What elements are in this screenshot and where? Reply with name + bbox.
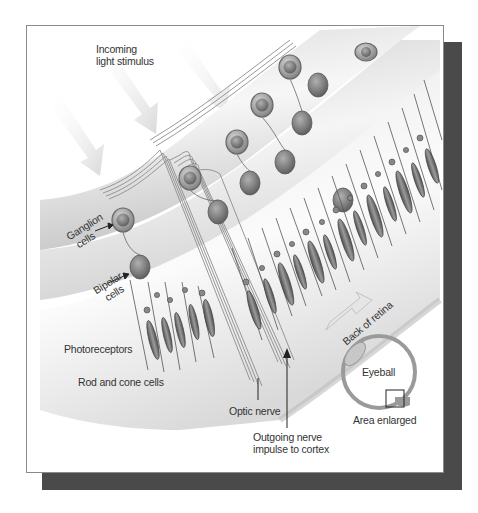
label-outgoing-impulse: Outgoing nerve impulse to cortex (253, 431, 329, 455)
label-area-enlarged: Area enlarged (353, 414, 416, 426)
label-eyeball: Eyeball (362, 366, 395, 378)
label-rod-and-cone-cells: Rod and cone cells (78, 376, 164, 388)
retina-illustration (0, 0, 478, 513)
label-incoming-light: Incoming light stimulus (96, 43, 154, 67)
label-photoreceptors: Photoreceptors (64, 343, 132, 355)
label-optic-nerve: Optic nerve (229, 405, 281, 417)
